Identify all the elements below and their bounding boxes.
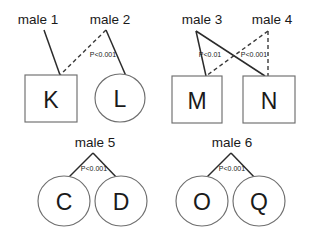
label-male2: male 2 <box>90 12 131 27</box>
pedigree-diagram: K L male 1 male 2 P<0.001 M N male 3 mal… <box>0 0 311 232</box>
label-male3: male 3 <box>182 12 223 27</box>
node-O-label: O <box>193 189 211 215</box>
group-male1-male2: K L male 1 male 2 P<0.001 <box>18 12 145 122</box>
label-male5: male 5 <box>75 135 116 150</box>
group-male3-male4: M N male 3 male 4 P<0.01 P<0.001 <box>172 12 295 123</box>
edge-male1-K <box>44 30 60 75</box>
group-male5: C D male 5 P<0.001 <box>38 135 147 226</box>
group-male6: O Q male 6 P<0.001 <box>176 135 285 226</box>
node-D-label: D <box>113 189 130 215</box>
pvalue-group4: P<0.001 <box>219 165 245 172</box>
node-M-label: M <box>187 88 206 114</box>
diagram-canvas: K L male 1 male 2 P<0.001 M N male 3 mal… <box>0 0 311 232</box>
pvalue-group1: P<0.001 <box>90 51 116 58</box>
node-Q-label: Q <box>250 189 268 215</box>
node-L-label: L <box>114 86 127 112</box>
label-male6: male 6 <box>212 135 253 150</box>
node-C-label: C <box>56 189 73 215</box>
label-male4: male 4 <box>252 12 293 27</box>
pvalue-group2-left: P<0.01 <box>199 51 221 58</box>
node-N-label: N <box>261 88 278 114</box>
pvalue-group3: P<0.001 <box>81 165 107 172</box>
label-male1: male 1 <box>18 12 59 27</box>
node-K-label: K <box>43 87 59 113</box>
pvalue-group2-right: P<0.001 <box>241 51 267 58</box>
